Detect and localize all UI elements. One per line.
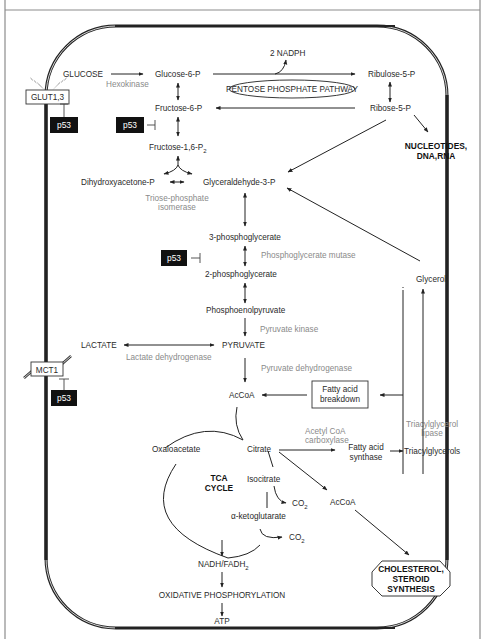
- svg-text:Fatty acid: Fatty acid: [322, 385, 358, 394]
- svg-text:breakdown: breakdown: [320, 395, 361, 404]
- nucleotides-label-1: NUCLEOTIDES,: [405, 141, 467, 151]
- glucose-label: GLUCOSE: [63, 70, 104, 79]
- pg2-label: 2-phosphoglycerate: [205, 270, 277, 279]
- g6p-label: Glucose-6-P: [155, 70, 201, 79]
- co2-label-2: CO2: [289, 533, 305, 544]
- ribulose-label: Ribulose-5-P: [368, 70, 416, 79]
- isocitrate-label: Isocitrate: [247, 475, 281, 484]
- tpi-label-2: isomerase: [158, 203, 196, 212]
- tca-label-2: CYCLE: [205, 483, 234, 493]
- cell-membrane: [46, 26, 447, 628]
- pyruvate-label: PYRUVATE: [222, 341, 265, 350]
- ldh-label: Lactate dehydrogenase: [126, 353, 212, 362]
- cholesterol-box: CHOLESTEROL, STEROID SYNTHESIS: [372, 561, 450, 596]
- p53-box-pgm: p53: [161, 250, 200, 266]
- nucleotides-label-2: DNA,RNA: [417, 151, 456, 161]
- atp-label: ATP: [214, 617, 230, 626]
- citrate-label: Citrate: [247, 445, 272, 454]
- tgl-label-2: lipase: [421, 429, 443, 438]
- tca-label-1: TCA: [210, 473, 227, 483]
- lactate-label: LACTATE: [81, 341, 117, 350]
- tgl-label-1: Triacylglycerol: [406, 420, 458, 429]
- p53-box-glut: p53: [50, 117, 78, 133]
- f6p-label: Fructose-6-P: [155, 104, 203, 113]
- svg-text:p53: p53: [123, 120, 137, 130]
- svg-text:CHOLESTEROL,: CHOLESTEROL,: [378, 564, 444, 574]
- pep-label: Phosphoenolpyruvate: [206, 306, 286, 315]
- diagram-frame: GLUT1,3 p53 MCT1 p53 p53 p53 GLUCOSE Hex…: [0, 0, 485, 639]
- pgm-label: Phosphoglycerate mutase: [261, 251, 356, 260]
- tpi-label-1: Triose-phosphate: [145, 194, 209, 203]
- dhap-label: Dihydroxyacetone-P: [81, 178, 155, 187]
- ppp-ellipse: PENTOSE PHOSPHATE PATHWAY: [226, 80, 358, 98]
- accoa-label: AcCoA: [229, 391, 255, 400]
- p53-box-pfk: p53: [116, 117, 155, 133]
- p53-label: p53: [57, 120, 71, 130]
- ribose-label: Ribose-5-P: [370, 104, 411, 113]
- pg3-label: 3-phosphoglycerate: [209, 233, 281, 242]
- aldolase-split: [164, 156, 192, 174]
- co2-label-1: CO2: [292, 499, 308, 510]
- tag-label: Triacylglycerols: [404, 447, 460, 456]
- p53-box-mct: p53: [51, 390, 77, 406]
- glut-label: GLUT1,3: [31, 93, 65, 102]
- pdh-label: Pyruvate dehydrogenase: [261, 364, 352, 373]
- pk-label: Pyruvate kinase: [260, 325, 319, 334]
- fa-synthase-label-1: Fatty acid: [348, 443, 384, 452]
- f16p-label: Fructose-1,6-P2: [149, 143, 207, 154]
- nadph-label: 2 NADPH: [270, 49, 306, 58]
- mct-label: MCT1: [36, 366, 59, 375]
- glycerol-label: Glycerol: [416, 275, 446, 284]
- page-border: [5, 0, 480, 639]
- nadh-label: NADH/FADH2: [198, 560, 249, 571]
- g3p-label: Glyceraldehyde-3-P: [203, 178, 276, 187]
- svg-text:p53: p53: [167, 253, 181, 263]
- acc-label-2: carboxylase: [305, 436, 349, 445]
- fa-synthase-label-2: synthase: [350, 453, 383, 462]
- svg-text:SYNTHESIS: SYNTHESIS: [387, 584, 435, 594]
- accoa2-label: AcCoA: [330, 498, 356, 507]
- akg-label: α-ketoglutarate: [231, 512, 286, 521]
- svg-text:p53: p53: [57, 393, 71, 403]
- acc-label-1: Acetyl CoA: [305, 427, 346, 436]
- oxphos-label: OXIDATIVE PHOSPHORYLATION: [159, 591, 286, 600]
- fatty-acid-breakdown-box: Fatty acid breakdown: [312, 381, 368, 408]
- svg-text:PENTOSE PHOSPHATE PATHWAY: PENTOSE PHOSPHATE PATHWAY: [226, 85, 358, 94]
- hexokinase-label: Hexokinase: [106, 80, 149, 89]
- oxaloacetate-label: Oxaloacetate: [152, 445, 201, 454]
- svg-text:STEROID: STEROID: [392, 574, 429, 584]
